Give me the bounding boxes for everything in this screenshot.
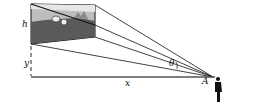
picture bbox=[31, 4, 95, 44]
theta-arc bbox=[176, 62, 177, 69]
observer-figure bbox=[215, 77, 222, 102]
label-y: y bbox=[23, 58, 30, 68]
label-A: A bbox=[201, 76, 209, 86]
viewing-angle-diagram: h y x θ A bbox=[0, 0, 254, 109]
label-x: x bbox=[125, 78, 130, 88]
label-h: h bbox=[22, 19, 28, 29]
label-theta: θ bbox=[169, 58, 175, 68]
